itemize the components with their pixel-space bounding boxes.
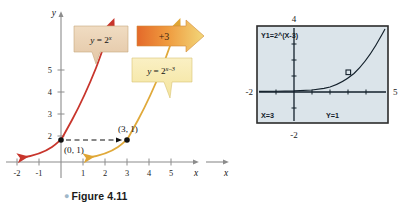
figure-4-11-caption-text: Figure 4.11 — [72, 190, 128, 202]
plus-3-arrow-shape — [137, 20, 204, 52]
trace-x-readout: X=3 — [261, 111, 274, 120]
figure-4-11-caption: ●Figure 4.11 — [64, 190, 128, 202]
callout-y-equals-2-to-x: y = 2x — [74, 26, 128, 64]
x-axis-label: x — [193, 168, 199, 178]
window-xmax-label: 5 — [393, 87, 398, 97]
point-0-1-dot — [58, 137, 64, 143]
callout-y-equals-2-to-x-minus-3: y = 2x–3 — [132, 58, 192, 98]
calculator-screen[interactable]: Y1=2^(X-3) X=3 Y=1 — [257, 26, 388, 123]
callout-plus-3-arrow: +3 — [137, 20, 204, 52]
y-tick-label: 2 — [48, 132, 52, 141]
window-xmin-label: -2 — [246, 87, 254, 97]
figure-pair-container: -2 -1 1 2 3 4 5 2 3 4 5 y x — [0, 0, 412, 208]
figure-4-11-svg: -2 -1 1 2 3 4 5 2 3 4 5 y x — [0, 0, 206, 190]
callout-1-bubble — [74, 26, 128, 64]
callout-2-bubble — [132, 58, 192, 98]
x-axis-continuation-label: x — [223, 168, 229, 178]
x-tick-label: 1 — [81, 169, 85, 178]
y-tick-label: 4 — [48, 88, 53, 97]
window-ymin-label: -2 — [290, 130, 298, 140]
y-tick-label: 3 — [48, 110, 52, 119]
y-tick-label: 5 — [48, 66, 52, 75]
figure-4-12: x — [206, 0, 412, 208]
point-3-1-dot — [124, 137, 130, 143]
point-3-1-label: (3, 1) — [118, 124, 138, 134]
window-ymax-label: 4 — [292, 14, 297, 24]
y-axis-label: y — [51, 8, 57, 18]
x-tick-label: -2 — [14, 169, 21, 178]
figure-4-11: -2 -1 1 2 3 4 5 2 3 4 5 y x — [0, 0, 206, 208]
calculator-screen-bezel — [257, 26, 388, 123]
caption-bullet-icon: ● — [64, 191, 70, 201]
x-tick-label: 4 — [147, 169, 152, 178]
x-tick-label: 5 — [169, 169, 173, 178]
plus-3-label: +3 — [159, 31, 170, 42]
figure-4-12-svg: x — [206, 0, 412, 190]
x-tick-label: 2 — [103, 169, 107, 178]
point-0-1-label: (0, 1) — [64, 145, 84, 155]
x-tick-label: -1 — [36, 169, 43, 178]
trace-y-readout: Y=1 — [326, 111, 339, 120]
calc-equation-label: Y1=2^(X-3) — [261, 31, 299, 40]
callout-1-text: y = 2x — [89, 34, 111, 45]
x-tick-label: 3 — [125, 169, 129, 178]
